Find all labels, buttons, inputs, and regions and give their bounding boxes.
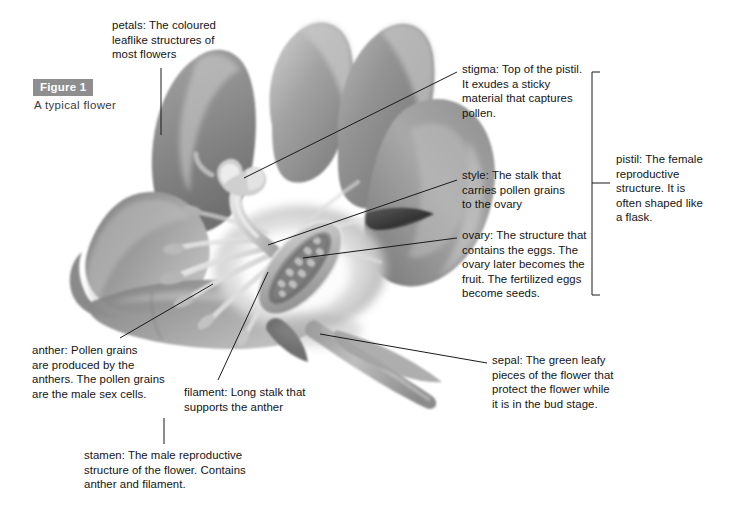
callout-ovary-line-3: ovary later becomes the [462,257,600,272]
callout-filament-line-1: filament: Long stalk that [184,385,346,400]
callout-pistil-line-3: structure. It is [616,181,728,196]
callout-stamen-line-1: stamen: The male reproductive [84,448,290,463]
callout-pistil-line-5: a flask. [616,210,728,225]
callout-stamen: stamen: The male reproductive structure … [84,448,290,492]
callout-petals-line-3: most flowers [112,47,272,62]
figure-caption: A typical flower [34,99,116,111]
callout-sepal-line-3: protect the flower while [492,382,636,397]
callout-pistil-line-2: reproductive [616,167,728,182]
callout-pistil-line-4: often shaped like [616,196,728,211]
callout-style: style: The stalk that carries pollen gra… [462,168,590,212]
callout-petals-line-1: petals: The coloured [112,18,272,33]
callout-stigma: stigma: Top of the pistil. It exudes a s… [462,62,596,120]
callout-stigma-line-4: pollen. [462,106,596,121]
callout-stigma-line-3: material that captures [462,91,596,106]
callout-style-line-3: to the ovary [462,197,590,212]
figure-page: Figure 1 A typical flower petals: The co… [0,0,735,511]
callout-ovary-line-2: contains the eggs. The [462,243,600,258]
callout-filament-line-2: supports the anther [184,400,346,415]
callout-sepal-line-2: pieces of the flower that [492,368,636,383]
callout-petals: petals: The coloured leaflike structures… [112,18,272,62]
callout-anther-line-1: anther: Pollen grains [32,343,200,358]
callout-stigma-line-1: stigma: Top of the pistil. [462,62,596,77]
callout-anther: anther: Pollen grains are produced by th… [32,343,200,401]
callout-anther-line-3: anthers. The pollen grains [32,372,200,387]
callout-ovary-line-4: fruit. The fertilized eggs [462,272,600,287]
callout-stamen-line-2: structure of the flower. Contains [84,463,290,478]
figure-number-badge: Figure 1 [33,79,93,96]
callout-pistil-line-1: pistil: The female [616,152,728,167]
callout-pistil: pistil: The female reproductive structur… [616,152,728,225]
callout-stamen-line-3: anther and filament. [84,477,290,492]
callout-anther-line-2: are produced by the [32,358,200,373]
callout-ovary-line-1: ovary: The structure that [462,228,600,243]
callout-sepal: sepal: The green leafy pieces of the flo… [492,353,636,411]
callout-filament: filament: Long stalk that supports the a… [184,385,346,414]
callout-anther-line-4: are the male sex cells. [32,387,200,402]
callout-ovary-line-5: become seeds. [462,286,600,301]
callout-ovary: ovary: The structure that contains the e… [462,228,600,301]
callout-sepal-line-1: sepal: The green leafy [492,353,636,368]
callout-style-line-1: style: The stalk that [462,168,590,183]
callout-stigma-line-2: It exudes a sticky [462,77,596,92]
callout-sepal-line-4: it is in the bud stage. [492,397,636,412]
flower-illustration [0,0,735,511]
callout-petals-line-2: leaflike structures of [112,33,272,48]
callout-style-line-2: carries pollen grains [462,183,590,198]
